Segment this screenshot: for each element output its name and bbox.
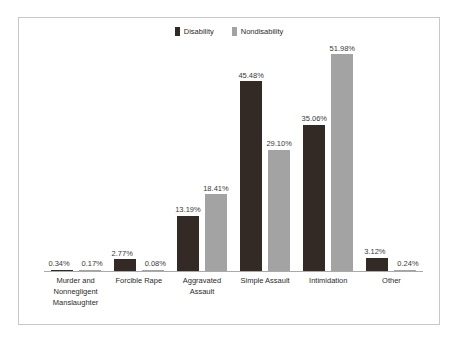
bar-wrap-disability: 35.06% <box>303 125 325 271</box>
x-axis-baseline <box>44 271 423 272</box>
x-axis-label-line: Nonnegligent <box>45 287 106 298</box>
x-axis-label-line: Aggravated Assault <box>171 276 232 298</box>
legend-label-nondisability: Nondisability <box>241 28 284 36</box>
bar-value-label: 2.77% <box>112 250 133 258</box>
x-axis-label-line: Forcible Rape <box>108 276 169 287</box>
x-axis-label-line: Manslaughter <box>45 298 106 309</box>
legend-label-disability: Disability <box>184 28 214 36</box>
x-axis-label-line: Simple Assault <box>235 276 296 287</box>
bar-nondisability <box>268 150 290 271</box>
bar-disability <box>366 258 388 271</box>
bar-group-simple-assault: 45.48% 29.10% <box>234 38 297 271</box>
x-axis-label-intimidation: Intimidation <box>297 276 360 309</box>
x-axis-label-forcible-rape: Forcible Rape <box>107 276 170 309</box>
x-axis-label-line: Murder and <box>45 276 106 287</box>
bar-wrap-nondisability: 18.41% <box>205 194 227 271</box>
bar-group-aggravated-assault: 13.19% 18.41% <box>170 38 233 271</box>
x-axis-label-other: Other <box>360 276 423 309</box>
bar-value-label: 0.34% <box>48 260 69 268</box>
bar-value-label: 3.12% <box>364 248 385 256</box>
bar-group-other: 3.12% 0.24% <box>360 38 423 271</box>
legend-swatch-disability <box>175 27 180 36</box>
bar-wrap-disability: 13.19% <box>177 216 199 271</box>
x-axis-label-aggravated-assault: Aggravated Assault <box>170 276 233 309</box>
bar-disability <box>303 125 325 271</box>
bar-nondisability <box>205 194 227 271</box>
chart-legend: Disability Nondisability <box>19 27 439 36</box>
bar-wrap-disability: 3.12% <box>366 258 388 271</box>
bar-wrap-nondisability: 29.10% <box>268 150 290 271</box>
x-axis-label-line: Other <box>361 276 422 287</box>
x-axis-label-murder-and-nonnegligent-manslaughter: Murder andNonnegligentManslaughter <box>44 276 107 309</box>
x-axis-label-simple-assault: Simple Assault <box>234 276 297 309</box>
x-axis-category-labels: Murder andNonnegligentManslaughter Forci… <box>44 276 423 309</box>
bar-wrap-nondisability: 51.98% <box>331 54 353 271</box>
bar-value-label: 35.06% <box>302 115 327 123</box>
x-axis-label-line: Intimidation <box>298 276 359 287</box>
bar-nondisability <box>331 54 353 271</box>
bar-value-label: 45.48% <box>238 72 263 80</box>
plot-area: 0.34% 0.17% 2.77% 0.08% <box>31 38 429 316</box>
legend-item-disability: Disability <box>175 27 214 36</box>
legend-item-nondisability: Nondisability <box>232 27 284 36</box>
bar-group-murder-and-nonnegligent-manslaughter: 0.34% 0.17% <box>44 38 107 271</box>
bar-value-label: 0.24% <box>397 260 418 268</box>
bar-groups: 0.34% 0.17% 2.77% 0.08% <box>44 38 423 271</box>
bar-disability <box>114 259 136 271</box>
bar-value-label: 18.41% <box>203 185 228 193</box>
bar-value-label: 29.10% <box>266 140 291 148</box>
chart-frame: Disability Nondisability 0.34% 0.17% <box>18 17 440 325</box>
bar-value-label: 0.17% <box>81 260 102 268</box>
bar-group-forcible-rape: 2.77% 0.08% <box>107 38 170 271</box>
legend-swatch-nondisability <box>232 27 237 36</box>
bar-value-label: 51.98% <box>330 45 355 53</box>
bar-disability <box>240 81 262 271</box>
bar-wrap-disability: 2.77% <box>114 259 136 271</box>
bar-group-intimidation: 35.06% 51.98% <box>297 38 360 271</box>
bar-value-label: 13.19% <box>175 206 200 214</box>
bar-disability <box>177 216 199 271</box>
bar-wrap-disability: 45.48% <box>240 81 262 271</box>
bar-value-label: 0.08% <box>145 260 166 268</box>
